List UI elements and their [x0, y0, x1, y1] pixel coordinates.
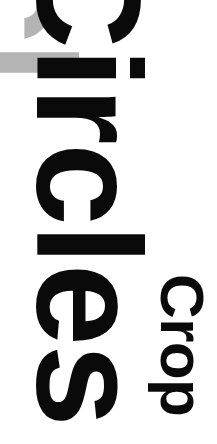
wordmark-circles: Circles — [14, 0, 162, 425]
image-canvas: Circles Circles Crop — [0, 0, 217, 444]
label-crop: Crop — [151, 274, 213, 416]
